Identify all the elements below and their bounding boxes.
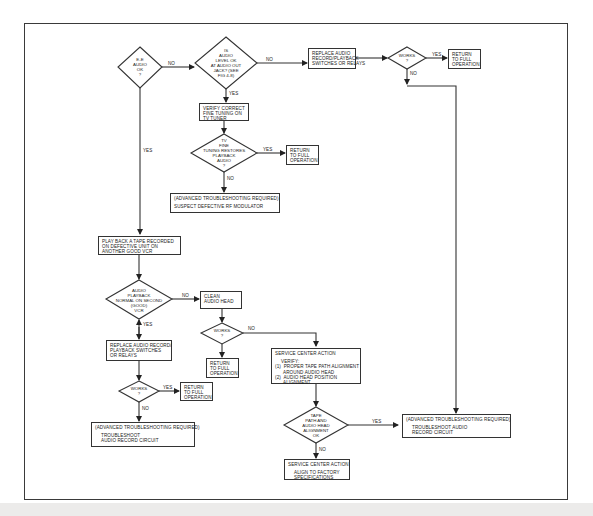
text-line: ?: [133, 72, 147, 77]
process-play-tape: PLAY BACK A TAPE RECORDED ON DEFECTIVE U…: [98, 236, 181, 255]
text-line: AUDIO RECORD CIRCUIT: [95, 438, 191, 443]
text-line: VCR: [116, 308, 162, 313]
text-line: OPERATION: [290, 158, 315, 163]
decision-ee-audio: E-E AUDIO OK ?: [133, 57, 147, 77]
text-line: AUDIO HEAD: [204, 299, 238, 304]
terminal-return-top: RETURN TO FULL OPERATION: [448, 49, 481, 69]
box-header: (ADVANCED TROUBLESHOOTING REQUIRED): [406, 417, 507, 422]
text-line: OPERATION: [184, 395, 209, 400]
process-advanced-rf: (ADVANCED TROUBLESHOOTING REQUIRED) SUSP…: [170, 193, 280, 213]
edge-label-yes: YES: [372, 419, 381, 424]
edge-label-yes: YES: [229, 91, 238, 96]
text-line: ALIGNMENT: [275, 380, 357, 385]
terminal-return-tuning: RETURN TO FULL OPERATION: [286, 145, 319, 165]
process-advanced-right: (ADVANCED TROUBLESHOOTING REQUIRED) TROU…: [402, 414, 511, 438]
terminal-return-left: RETURN TO FULL OPERATION: [180, 382, 213, 401]
process-clean-head: CLEAN AUDIO HEAD: [200, 291, 242, 309]
text-line: SWITCHES OR RELAYS: [312, 61, 352, 66]
edge-label-no: NO: [319, 447, 326, 452]
decision-tape-path: TAPE PATH AND AUDIO HEAD ALIGNMENT OK: [302, 413, 329, 438]
process-verify-tuning: VERIFY CORRECT FINE TUNING ON TV TUNER: [199, 103, 249, 121]
decision-second-vcr: AUDIO PLAYBACK NORMAL ON SECOND (GOOD) V…: [116, 288, 162, 313]
text-line: ?: [131, 391, 148, 396]
edge-label-no: NO: [168, 61, 175, 66]
box-header: (ADVANCED TROUBLESHOOTING REQUIRED): [174, 196, 276, 201]
text-line: SUSPECT DEFECTIVE RF MODULATOR: [174, 204, 276, 209]
edge-label-yes: YES: [163, 385, 172, 390]
decision-fine-tuning: TV FINE TUNING RESTORES PLAYBACK AUDIO ?: [203, 138, 245, 168]
text-line: OK: [302, 433, 329, 438]
box-header: (ADVANCED TROUBLESHOOTING REQUIRED): [95, 425, 191, 430]
edge-label-yes: YES: [143, 322, 152, 327]
text-line: OPERATION: [452, 62, 477, 67]
decision-works-top: WORKS ?: [399, 53, 416, 63]
edge-label-no: NO: [248, 326, 255, 331]
text-line: SPECIFICATIONS: [288, 475, 346, 480]
process-service-verify: SERVICE CENTER ACTION VERIFY: (1) PROPER…: [271, 348, 361, 384]
terminal-return-clean: RETURN TO FULL OPERATION: [206, 358, 239, 378]
text-line: TV TUNER: [203, 116, 245, 121]
edge-label-yes: YES: [143, 148, 152, 153]
text-line: FIG 4-8): [211, 73, 242, 78]
text-line: OPERATION: [210, 371, 235, 376]
decision-works-clean: WORKS ?: [214, 328, 231, 338]
process-advanced-left: (ADVANCED TROUBLESHOOTING REQUIRED) TROU…: [91, 422, 195, 447]
text-line: OR RELAYS: [110, 353, 168, 358]
text-line: (1) PROPER TAPE PATH ALIGNMENT: [275, 364, 357, 369]
edge-label-no: NO: [266, 57, 273, 62]
process-service-align: SERVICE CENTER ACTION ALIGN TO FACTORY S…: [284, 459, 350, 480]
decision-works-left: WORKS ?: [131, 386, 148, 396]
edge-label-yes: YES: [263, 147, 272, 152]
text-line: ?: [399, 58, 416, 63]
edge-label-no: NO: [142, 406, 149, 411]
edge-label-no: NO: [227, 176, 234, 181]
decision-audio-level: IS AUDIO LEVEL OK AT AUDIO OUT JACK? (SE…: [211, 48, 242, 78]
text-line: ?: [203, 163, 245, 168]
edge-label-no: NO: [182, 293, 189, 298]
flowchart-connectors: [0, 0, 593, 516]
box-header: SERVICE CENTER ACTION: [275, 351, 357, 356]
text-line: RECORD CIRCUIT: [406, 430, 507, 435]
edge-label-no: NO: [410, 71, 417, 76]
box-header: SERVICE CENTER ACTION: [288, 462, 346, 467]
text-line: ANOTHER GOOD VCR: [102, 249, 177, 254]
edge-label-yes: YES: [432, 52, 441, 57]
process-replace-left: REPLACE AUDIO RECORD/ PLAYBACK SWITCHES …: [106, 340, 172, 361]
process-replace-top: REPLACE AUDIO RECORD/PLAYBACK SWITCHES O…: [308, 48, 356, 69]
text-line: ?: [214, 333, 231, 338]
